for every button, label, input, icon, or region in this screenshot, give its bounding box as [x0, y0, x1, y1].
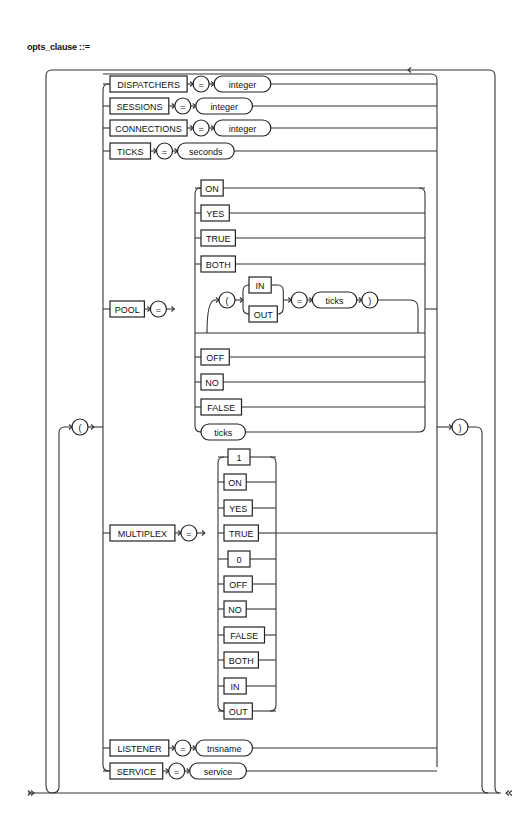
pool-value-ticks-var: ticks	[201, 424, 246, 440]
multiplex-value-no: NO	[224, 601, 246, 617]
svg-text:NO: NO	[228, 605, 242, 615]
svg-text:ON: ON	[228, 478, 242, 488]
diagram-nodes: ()DISPATCHERS=integerSESSIONS=integerCON…	[72, 76, 468, 779]
svg-text:YES: YES	[206, 209, 224, 219]
svg-text:LISTENER: LISTENER	[117, 744, 162, 754]
svg-text:tnsname: tnsname	[207, 744, 242, 754]
keyword-listener: LISTENER	[110, 740, 169, 756]
svg-text:TRUE: TRUE	[206, 234, 231, 244]
svg-text:=: =	[180, 102, 185, 112]
open-paren-symbol: (	[72, 419, 88, 435]
keyword-ticks: TICKS	[110, 143, 151, 159]
multiplex-value-out: OUT	[224, 703, 252, 719]
svg-text:YES: YES	[229, 504, 247, 514]
svg-text:integer: integer	[229, 124, 257, 134]
svg-text:=: =	[174, 767, 179, 777]
equals-symbol: =	[193, 120, 209, 136]
equals-symbol: =	[175, 740, 191, 756]
svg-text:): )	[368, 296, 371, 306]
svg-text:seconds: seconds	[189, 147, 223, 157]
svg-text:integer: integer	[210, 102, 238, 112]
loop-close-paren: )	[362, 292, 378, 308]
svg-text:=: =	[180, 744, 185, 754]
loop-value-ticks: ticks	[312, 292, 357, 308]
value-integer: integer	[214, 76, 271, 92]
close-paren-symbol: )	[452, 419, 468, 435]
svg-text:ticks: ticks	[326, 296, 345, 306]
equals-symbol: =	[175, 98, 191, 114]
loop-choice-in: IN	[249, 277, 271, 293]
value-seconds: seconds	[178, 143, 235, 159]
svg-text:SERVICE: SERVICE	[117, 767, 156, 777]
keyword-sessions: SESSIONS	[110, 98, 169, 114]
svg-text:1: 1	[236, 453, 241, 463]
connector-lines	[28, 68, 512, 796]
svg-text:BOTH: BOTH	[206, 260, 231, 270]
keyword-connections: CONNECTIONS	[110, 120, 187, 136]
multiplex-value-on: ON	[224, 474, 246, 490]
multiplex-value-both: BOTH	[224, 652, 258, 668]
keyword-multiplex: MULTIPLEX	[110, 525, 175, 541]
svg-text:SESSIONS: SESSIONS	[116, 102, 162, 112]
value-integer: integer	[214, 120, 271, 136]
syntax-diagram: ()DISPATCHERS=integerSESSIONS=integerCON…	[0, 0, 529, 826]
loop-choice-out: OUT	[249, 306, 277, 322]
pool-value-false: FALSE	[201, 399, 242, 415]
keyword-pool: POOL	[110, 301, 144, 317]
value-service: service	[190, 763, 247, 779]
equals-symbol: =	[181, 525, 197, 541]
loop-open-paren: (	[219, 292, 235, 308]
svg-text:=: =	[162, 147, 167, 157]
svg-text:OUT: OUT	[254, 310, 274, 320]
svg-text:OFF: OFF	[206, 353, 224, 363]
svg-text:=: =	[186, 529, 191, 539]
equals-symbol: =	[157, 143, 173, 159]
svg-text:ON: ON	[205, 184, 219, 194]
svg-text:OFF: OFF	[229, 580, 247, 590]
equals-symbol: =	[193, 76, 209, 92]
svg-text:IN: IN	[231, 682, 240, 692]
svg-text:=: =	[156, 305, 161, 315]
value-integer: integer	[196, 98, 253, 114]
equals-symbol: =	[169, 763, 185, 779]
pool-value-both: BOTH	[201, 256, 235, 272]
svg-text:BOTH: BOTH	[229, 656, 254, 666]
svg-text:TRUE: TRUE	[229, 529, 254, 539]
svg-text:POOL: POOL	[115, 305, 140, 315]
pool-value-no: NO	[201, 374, 223, 390]
svg-text:service: service	[204, 767, 233, 777]
svg-text:0: 0	[236, 555, 241, 565]
svg-text:=: =	[297, 296, 302, 306]
multiplex-value-false: FALSE	[224, 627, 265, 643]
svg-text:FALSE: FALSE	[207, 403, 235, 413]
value-tnsname: tnsname	[196, 740, 253, 756]
multiplex-value-in: IN	[224, 678, 246, 694]
svg-text:integer: integer	[229, 80, 257, 90]
svg-text:(: (	[79, 423, 82, 433]
svg-text:MULTIPLEX: MULTIPLEX	[118, 529, 167, 539]
svg-text:=: =	[198, 80, 203, 90]
multiplex-value-off: OFF	[224, 576, 252, 592]
pool-value-yes: YES	[201, 205, 229, 221]
svg-text:FALSE: FALSE	[230, 631, 258, 641]
svg-text:OUT: OUT	[229, 707, 249, 717]
svg-text:NO: NO	[205, 378, 219, 388]
pool-value-on: ON	[201, 180, 223, 196]
keyword-dispatchers: DISPATCHERS	[110, 76, 187, 92]
svg-text:CONNECTIONS: CONNECTIONS	[115, 124, 182, 134]
svg-text:ticks: ticks	[214, 428, 233, 438]
multiplex-value-zero: 0	[228, 551, 250, 567]
pool-value-true: TRUE	[201, 230, 235, 246]
svg-text:DISPATCHERS: DISPATCHERS	[117, 80, 180, 90]
multiplex-value-one: 1	[228, 449, 250, 465]
svg-text:IN: IN	[256, 281, 265, 291]
svg-text:=: =	[198, 124, 203, 134]
keyword-service: SERVICE	[110, 763, 163, 779]
svg-text:TICKS: TICKS	[117, 147, 144, 157]
svg-text:(: (	[226, 296, 229, 306]
multiplex-value-true: TRUE	[224, 525, 258, 541]
loop-equals: =	[291, 292, 307, 308]
multiplex-value-yes: YES	[224, 500, 252, 516]
equals-symbol: =	[150, 301, 166, 317]
pool-value-off: OFF	[201, 349, 229, 365]
